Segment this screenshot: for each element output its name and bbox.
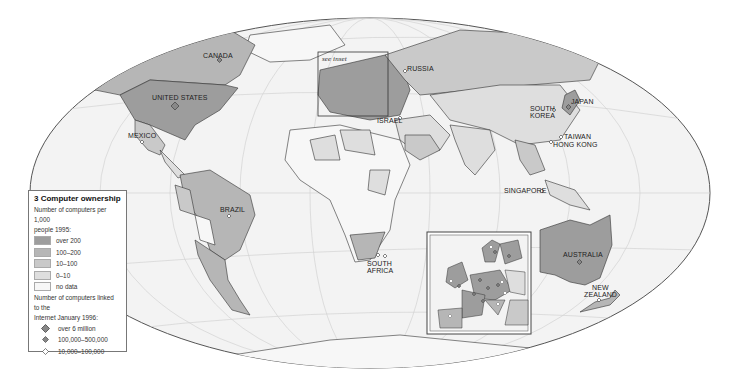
swatch bbox=[34, 248, 51, 257]
europe-inset bbox=[427, 232, 531, 334]
label-brazil: BRAZIL bbox=[220, 206, 245, 214]
legend-subtitle-2: people 1995: bbox=[34, 225, 121, 235]
label-israel: ISRAEL bbox=[377, 117, 403, 125]
legend-marker-small: 10,000–100,000 bbox=[34, 346, 121, 358]
legend-class-over-200: over 200 bbox=[34, 235, 121, 247]
legend-markers-title-1: Number of computers linked to the bbox=[34, 293, 121, 313]
label-see-inset: see inset bbox=[322, 55, 347, 63]
legend-class-100-200: 100–200 bbox=[34, 247, 121, 259]
label-south-korea-2: KOREA bbox=[530, 112, 555, 120]
label-hong-kong: HONG KONG bbox=[553, 141, 597, 149]
legend-markers-title-2: Internet January 1996: bbox=[34, 313, 121, 323]
large-diamond-icon bbox=[40, 324, 50, 333]
swatch bbox=[34, 236, 51, 245]
swatch bbox=[34, 271, 51, 280]
legend-marker-medium: 100,000–500,000 bbox=[34, 334, 121, 346]
label-australia: AUSTRALIA bbox=[563, 251, 603, 259]
legend-class-0-10: 0–10 bbox=[34, 270, 121, 282]
legend-title: 3 Computer ownership bbox=[34, 194, 121, 204]
open-diamond-icon bbox=[40, 348, 50, 355]
legend-subtitle-1: Number of computers per 1,000 bbox=[34, 205, 121, 225]
swatch bbox=[34, 282, 51, 291]
legend-marker-large: over 6 million bbox=[34, 323, 121, 335]
legend-class-no-data: no data bbox=[34, 281, 121, 293]
label-russia: RUSSIA bbox=[407, 65, 434, 73]
label-japan: JAPAN bbox=[571, 98, 594, 106]
label-mexico: MEXICO bbox=[128, 132, 156, 140]
small-diamond-icon bbox=[40, 336, 50, 343]
label-new-zealand-2: ZEALAND bbox=[584, 291, 617, 299]
legend-class-10-100: 10–100 bbox=[34, 258, 121, 270]
label-taiwan: TAIWAN bbox=[564, 133, 591, 141]
swatch bbox=[34, 259, 51, 268]
label-united-states: UNITED STATES bbox=[152, 94, 208, 102]
label-singapore: SINGAPORE bbox=[504, 187, 547, 195]
label-canada: CANADA bbox=[203, 52, 233, 60]
label-south-africa-2: AFRICA bbox=[367, 267, 393, 275]
map-legend: 3 Computer ownership Number of computers… bbox=[28, 190, 127, 352]
